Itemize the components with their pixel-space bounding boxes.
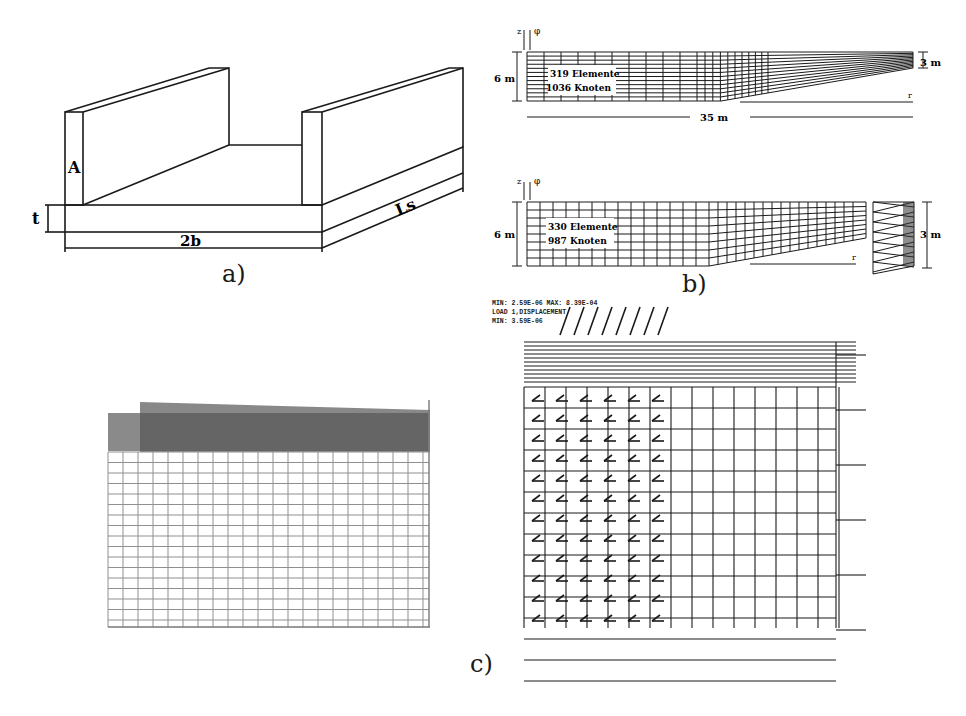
displacement-plot-left: [100, 380, 450, 640]
bottom-height-right: 3 m: [920, 229, 941, 240]
bottom-height-left: 6 m: [494, 229, 515, 240]
label-width-2b: 2b: [180, 232, 201, 250]
panel-b-fe-meshes: 319 Elemente 1036 Knoten 6 m 3 m 35 m z …: [490, 20, 950, 300]
mesh-drawings: 319 Elemente 1036 Knoten 6 m 3 m 35 m z …: [490, 20, 950, 300]
caption-c: c): [470, 650, 493, 678]
displacement-plot-right: [490, 295, 890, 640]
top-height-right: 3 m: [920, 57, 941, 68]
top-length: 35 m: [700, 112, 728, 123]
panel-c-left-displacement-plot: [100, 380, 450, 640]
bottom-mesh-nodes: 987 Knoten: [548, 236, 607, 246]
caption-a: a): [222, 260, 246, 288]
label-thickness-t: t: [32, 209, 40, 228]
bottom-axis-phi: φ: [534, 176, 540, 186]
channel-drawing: A t 2b Ls: [0, 0, 480, 300]
caption-b: b): [682, 270, 707, 298]
bottom-axis-z: z: [517, 177, 521, 186]
top-mesh-nodes: 1036 Knoten: [546, 83, 611, 93]
top-axis-phi: φ: [534, 26, 540, 36]
panel-c-right-displacement-vectors: MIN: 2.59E-06 MAX: 8.39E-04 LOAD 1,DISPL…: [490, 295, 890, 640]
bottom-axis-r: r: [852, 253, 856, 262]
top-mesh-elements: 319 Elemente: [550, 69, 620, 79]
top-height-left: 6 m: [494, 73, 515, 84]
panel-a-channel-sketch: A t 2b Ls a): [0, 0, 480, 300]
top-axis-r: r: [908, 91, 912, 100]
top-axis-z: z: [517, 27, 521, 36]
bottom-mesh-elements: 330 Elemente: [548, 222, 618, 232]
label-wall-a: A: [67, 158, 81, 177]
